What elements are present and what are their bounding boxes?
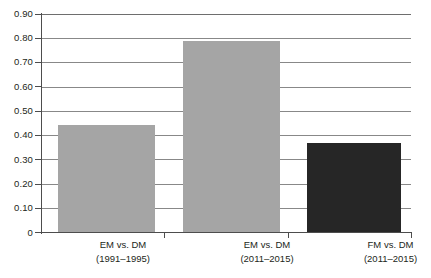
x-tick-label-2-line2: (2011–2015) [329,252,431,266]
x-tick-label-1: EM vs. DM (2011–2015) [205,238,329,265]
x-tick-label-1-line1: EM vs. DM [205,238,329,252]
x-axis-line [41,232,412,233]
y-tick-label-2: 0.70 [1,57,33,67]
y-tick-label-3: 0.60 [1,82,33,92]
y-tick-label-9: 0 [1,228,33,238]
x-tick-label-2: FM vs. DM (2011–2015) [329,238,431,265]
y-tick-label-0: 0.90 [1,9,33,19]
bar-em-vs-dm-1991-1995 [58,125,155,232]
x-tick-label-0-line2: (1991–1995) [41,252,205,266]
bar-fm-vs-dm-2011-2015 [307,143,401,232]
y-tick-label-5: 0.40 [1,130,33,140]
x-tick-label-2-line1: FM vs. DM [329,238,431,252]
bar-em-vs-dm-2011-2015 [183,41,280,232]
x-tick-label-0: EM vs. DM (1991–1995) [41,238,205,265]
bars-layer [41,14,411,232]
x-tick-label-0-line1: EM vs. DM [41,238,205,252]
y-axis-line [41,13,42,234]
y-tick-label-7: 0.20 [1,179,33,189]
bar-chart-figure: 0.90 0.80 0.70 0.60 0.50 0.40 0.30 0.20 … [0,0,431,278]
y-tick-label-8: 0.10 [1,203,33,213]
y-tick-label-1: 0.80 [1,33,33,43]
x-axis-labels: EM vs. DM (1991–1995) EM vs. DM (2011–20… [41,238,412,276]
y-tick-label-6: 0.30 [1,155,33,165]
x-tick-label-1-line2: (2011–2015) [205,252,329,266]
y-tick-label-4: 0.50 [1,106,33,116]
y-axis-labels: 0.90 0.80 0.70 0.60 0.50 0.40 0.30 0.20 … [0,0,33,278]
